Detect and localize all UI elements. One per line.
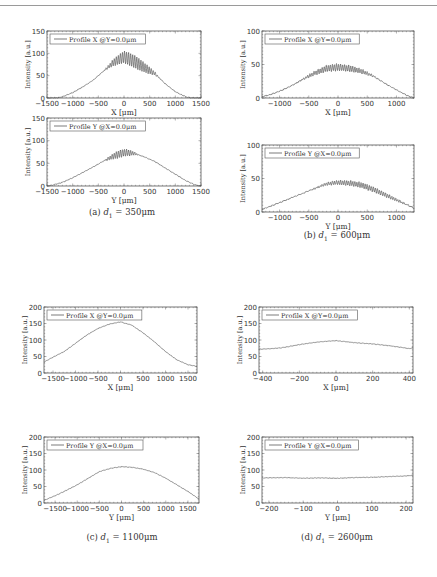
svg-text:−1000: −1000	[65, 505, 89, 513]
legend-label: Profile Y @X=0.0μm	[284, 150, 351, 158]
svg-text:0: 0	[119, 505, 123, 513]
svg-text:1000: 1000	[157, 375, 175, 383]
legend-label: Profile X @Y=0.0μm	[284, 36, 351, 44]
svg-text:−1000: −1000	[64, 375, 88, 383]
svg-text:100: 100	[32, 137, 45, 145]
svg-text:100: 100	[247, 142, 260, 150]
svg-text:−1000: −1000	[268, 214, 292, 222]
y-axis-label: Intensity [a.u.]	[21, 316, 29, 364]
svg-text:1000: 1000	[166, 100, 184, 108]
svg-text:0: 0	[334, 375, 338, 383]
caption-b-label: (b)	[304, 230, 316, 240]
svg-text:50: 50	[248, 353, 257, 361]
svg-text:−1500: −1500	[35, 188, 59, 196]
svg-text:0: 0	[118, 375, 122, 383]
caption-c: (c) d1 = 1100μm	[22, 532, 222, 544]
svg-text:−1000: −1000	[61, 100, 85, 108]
y-axis-label: Intensity [a.u.]	[21, 446, 29, 494]
svg-text:1000: 1000	[388, 100, 406, 108]
svg-text:200: 200	[244, 304, 257, 312]
profile-line	[262, 475, 413, 478]
svg-text:−1000: −1000	[268, 100, 292, 108]
svg-text:1000: 1000	[166, 188, 184, 196]
svg-text:100: 100	[247, 467, 260, 475]
svg-text:50: 50	[33, 353, 42, 361]
svg-text:−1500: −1500	[35, 100, 59, 108]
caption-d-eq: = 2600μm	[325, 532, 373, 542]
y-axis-label: Intensity [a.u.]	[239, 154, 247, 202]
caption-b: (b) d1 = 600μm	[237, 230, 437, 242]
svg-text:1000: 1000	[157, 505, 175, 513]
svg-text:−1000: −1000	[61, 188, 85, 196]
plot-d-x: −400−2000200400050100150200X [μm]Intensi…	[259, 307, 413, 373]
svg-text:100: 100	[244, 337, 257, 345]
x-axis-label: X [μm]	[325, 108, 351, 117]
svg-text:−100: −100	[294, 505, 313, 513]
plot-d-y: −200−1000100200050100150200Y [μm]Intensi…	[262, 437, 413, 503]
svg-text:0: 0	[336, 214, 340, 222]
svg-text:0: 0	[41, 95, 45, 103]
svg-text:−200: −200	[259, 505, 278, 513]
legend: Profile X @Y=0.0μm	[47, 310, 142, 320]
svg-text:0: 0	[256, 500, 260, 508]
svg-text:200: 200	[29, 434, 42, 442]
svg-text:500: 500	[136, 375, 149, 383]
svg-text:1000: 1000	[388, 214, 406, 222]
svg-text:200: 200	[29, 304, 42, 312]
plot-b-y: −1000−50005001000050100Y [μm]Intensity […	[262, 145, 414, 212]
plot-b-x: −1000−50005001000050100X [μm]Intensity […	[262, 31, 414, 98]
svg-text:0: 0	[122, 188, 126, 196]
svg-text:100: 100	[29, 467, 42, 475]
svg-text:500: 500	[137, 505, 150, 513]
svg-text:−500: −500	[90, 505, 109, 513]
y-axis-label: Intensity [a.u.]	[24, 128, 32, 176]
svg-text:0: 0	[256, 209, 260, 217]
svg-text:500: 500	[361, 214, 374, 222]
svg-text:200: 200	[366, 375, 379, 383]
svg-text:50: 50	[251, 61, 260, 69]
svg-text:0: 0	[41, 183, 45, 191]
svg-text:−500: −500	[299, 214, 318, 222]
plot-a-y: −1500−1000−500050010001500050100150Y [μm…	[47, 118, 201, 186]
x-axis-label: X [μm]	[323, 383, 349, 392]
legend: Profile Y @X=0.0μm	[265, 148, 359, 158]
svg-text:−500: −500	[89, 100, 108, 108]
legend: Profile X @Y=0.0μm	[262, 310, 357, 320]
caption-a-eq: = 350μm	[113, 207, 155, 217]
svg-text:150: 150	[32, 115, 45, 123]
svg-text:150: 150	[247, 450, 260, 458]
profile-line	[259, 340, 413, 349]
svg-text:400: 400	[403, 375, 416, 383]
caption-c-label: (c)	[86, 532, 97, 542]
svg-text:50: 50	[251, 175, 260, 183]
svg-text:150: 150	[32, 28, 45, 36]
legend: Profile X @Y=0.0μm	[265, 34, 359, 44]
profile-line	[47, 149, 201, 186]
legend-label: Profile Y @X=0.0μm	[69, 123, 136, 131]
plot-c-x: −1500−1000−500050010001500050100150200X …	[44, 307, 197, 373]
caption-d-label: (d)	[301, 532, 313, 542]
svg-text:50: 50	[36, 72, 45, 80]
svg-text:200: 200	[399, 505, 412, 513]
legend-label: Profile X @Y=0.0μm	[69, 36, 136, 44]
profile-line	[44, 322, 197, 367]
x-axis-label: X [μm]	[111, 108, 137, 117]
svg-text:100: 100	[32, 50, 45, 58]
svg-text:−1500: −1500	[41, 375, 65, 383]
legend-label: Profile Y @X=0.0μm	[284, 442, 351, 450]
caption-c-eq: = 1100μm	[110, 532, 158, 542]
caption-b-eq: = 600μm	[328, 230, 370, 240]
svg-text:100: 100	[247, 28, 260, 36]
svg-text:150: 150	[244, 320, 257, 328]
svg-text:0: 0	[253, 370, 257, 378]
svg-text:500: 500	[143, 100, 156, 108]
svg-text:−1500: −1500	[43, 505, 67, 513]
plot-a-x: −1500−1000−500050010001500050100150X [μm…	[47, 31, 201, 98]
x-axis-label: Y [μm]	[108, 513, 134, 522]
legend: Profile Y @X=0.0μm	[50, 121, 145, 131]
legend: Profile Y @X=0.0μm	[47, 440, 143, 450]
caption-a-label: (a)	[89, 207, 101, 217]
legend-label: Profile X @Y=0.0μm	[281, 312, 348, 320]
svg-text:0: 0	[38, 500, 42, 508]
caption-a: (a) d1 = 350μm	[22, 207, 222, 219]
